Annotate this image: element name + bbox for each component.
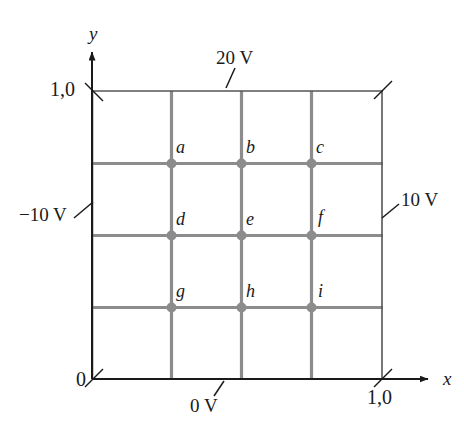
x-max-tick-label: 1,0	[367, 387, 392, 407]
node-dot-i	[307, 303, 317, 313]
leader-right-10v	[382, 204, 399, 218]
node-dot-e	[237, 231, 247, 241]
leader-top-20v	[226, 68, 235, 88]
tick-top-right	[374, 81, 392, 99]
node-dot-a	[167, 159, 177, 169]
node-dot-c	[307, 159, 317, 169]
node-label-f: f	[318, 208, 323, 226]
tick-y-max	[85, 83, 103, 101]
node-label-i: i	[318, 282, 323, 300]
x-axis-label: x	[443, 369, 451, 388]
node-label-c: c	[316, 138, 324, 156]
y-axis-label: y	[89, 24, 97, 43]
leader-lines	[74, 68, 399, 396]
leader-left-neg10v	[74, 202, 93, 218]
right-potential-label: 10 V	[401, 190, 438, 209]
potential-grid-figure: y x 1,0 0 1,0 20 V 0 V −10 V 10 V a b c …	[0, 0, 464, 441]
node-dot-g	[167, 303, 177, 313]
leader-bottom-0v	[214, 381, 224, 396]
node-label-a: a	[176, 138, 185, 156]
node-dot-f	[307, 231, 317, 241]
node-dot-b	[237, 159, 247, 169]
bottom-potential-label: 0 V	[190, 396, 218, 415]
node-label-d: d	[176, 210, 185, 228]
axis-lines	[92, 52, 428, 379]
node-label-b: b	[246, 138, 255, 156]
left-potential-label: −10 V	[19, 205, 67, 224]
origin-label: 0	[76, 369, 86, 389]
top-potential-label: 20 V	[216, 48, 253, 67]
node-label-e: e	[246, 210, 254, 228]
node-label-g: g	[176, 282, 185, 300]
node-dot-d	[167, 231, 177, 241]
node-label-h: h	[246, 282, 255, 300]
y-max-tick-label: 1,0	[50, 79, 75, 99]
node-dot-h	[237, 303, 247, 313]
